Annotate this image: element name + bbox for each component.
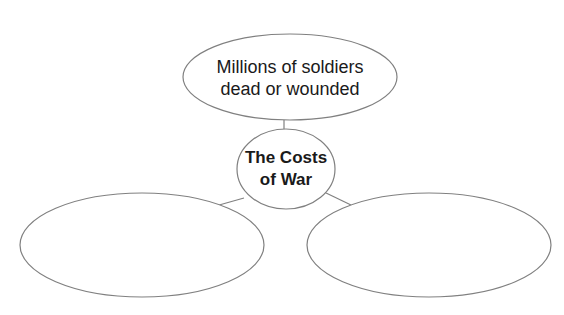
branch-top-text: Millions of soldiers dead or wounded xyxy=(190,52,390,104)
center-title-line-2: of War xyxy=(260,169,312,191)
branch-top-line-1: Millions of soldiers xyxy=(216,56,363,78)
branch-left-ellipse xyxy=(20,193,264,297)
branch-right-ellipse xyxy=(307,193,551,297)
center-title: The Costs of War xyxy=(237,145,335,193)
connector-right xyxy=(324,192,351,205)
center-title-line-1: The Costs xyxy=(245,147,327,169)
branch-top-line-2: dead or wounded xyxy=(220,78,359,100)
